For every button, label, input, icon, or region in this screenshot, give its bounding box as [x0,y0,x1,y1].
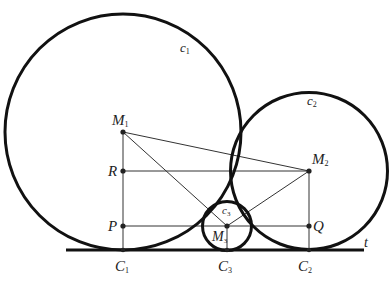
point-r [120,168,125,173]
point-m1 [120,129,125,134]
segment-m1-m2 [123,132,309,171]
point-c2 [307,248,311,252]
point-m3 [224,223,229,228]
tangent-circles-diagram: c1 c2 c3 M1 M2 M3 R P Q C1 C3 C2 t [0,0,391,284]
label-c1-point: C1 [115,258,129,275]
point-q [306,223,311,228]
label-t: t [364,235,369,250]
label-c2: c2 [307,93,317,109]
label-c3-point: C3 [218,258,232,275]
label-c3: c3 [222,204,231,218]
label-p: P [107,218,117,234]
label-r: R [107,163,117,179]
label-c1: c1 [180,40,190,56]
label-q: Q [313,218,324,234]
label-m1: M1 [111,112,129,129]
label-c2-point: C2 [298,258,312,275]
point-m2 [306,168,311,173]
label-m2: M2 [311,151,329,168]
point-p [120,223,125,228]
label-m3: M3 [211,229,228,245]
point-c3 [225,248,229,252]
segment-m2-m3 [227,171,309,226]
point-c1 [121,248,125,252]
